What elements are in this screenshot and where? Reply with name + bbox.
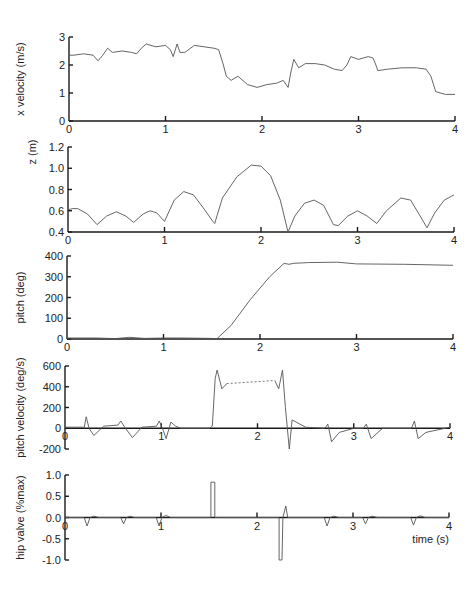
x-tick-label: 4	[447, 430, 453, 442]
figure: 012301234x velocity (m/s) 0.40.60.81.01.…	[0, 0, 476, 593]
y-axis-label: x velocity (m/s)	[14, 42, 26, 115]
x-tick-label: 0	[64, 341, 70, 353]
y-tick-label: 1.0	[46, 469, 61, 481]
x-tick-label: 0	[62, 520, 68, 532]
x-tick-label: 3	[353, 341, 359, 353]
y-tick-label: 0	[55, 422, 61, 434]
y-tick-label: 0.6	[49, 205, 64, 217]
x-tick-label: 3	[355, 123, 361, 135]
y-tick-label: 1.0	[49, 162, 64, 174]
x-tick-label: 1	[162, 123, 168, 135]
data-series-line	[275, 370, 450, 449]
x-tick-label: 0	[62, 430, 68, 442]
y-tick-label: 0.5	[46, 490, 61, 502]
y-tick-label: 0.0	[46, 512, 61, 524]
y-axis-label: hip valve (%max)	[14, 475, 26, 559]
x-tick-label: 0	[65, 234, 71, 246]
x-tick-label: 4	[451, 234, 457, 246]
y-tick-label: 2	[59, 59, 65, 71]
data-series-line	[69, 44, 455, 94]
x-tick-label: 4	[452, 123, 458, 135]
y-tick-label: 400	[45, 250, 63, 262]
y-tick-label: 300	[45, 271, 63, 283]
x-tick-label: 4	[446, 520, 452, 532]
data-series-line	[68, 165, 454, 232]
y-tick-label: 1	[59, 87, 65, 99]
y-tick-label: 200	[45, 292, 63, 304]
y-axis-label: pitch velocity (deg/s)	[14, 357, 26, 457]
x-tick-label: 2	[259, 123, 265, 135]
y-tick-label: 0.4	[49, 226, 64, 238]
panel-x-velocity: 012301234x velocity (m/s)	[14, 31, 458, 135]
x-tick-label: 1	[161, 234, 167, 246]
x-tick-label: 3	[354, 234, 360, 246]
x-tick-label: 3	[351, 430, 357, 442]
x-tick-label: 2	[257, 341, 263, 353]
data-series-line	[227, 381, 275, 384]
panel-hip-valve: -1.0-0.50.00.51.001234hip valve (%max)ti…	[14, 469, 452, 566]
panel-z-height: 0.40.60.81.01.201234z (m)	[26, 139, 457, 246]
x-tick-label: 0	[66, 123, 72, 135]
y-tick-label: 3	[59, 31, 65, 43]
y-tick-label: 1.2	[49, 141, 64, 153]
data-series-line	[67, 262, 453, 339]
x-tick-label: 4	[450, 341, 456, 353]
y-tick-label: 400	[43, 381, 61, 393]
y-tick-label: -0.5	[42, 533, 61, 545]
y-axis-label: pitch (deg)	[14, 272, 26, 324]
y-tick-label: 200	[43, 402, 61, 414]
x-tick-label: 1	[160, 341, 166, 353]
y-tick-label: 100	[45, 312, 63, 324]
y-tick-label: -200	[39, 443, 61, 455]
x-tick-label: 3	[350, 520, 356, 532]
y-tick-label: -1.0	[42, 554, 61, 566]
panel-pitch: 010020030040001234pitch (deg)	[14, 250, 456, 353]
x-axis-label: time (s)	[412, 533, 449, 545]
y-tick-label: 600	[43, 360, 61, 372]
y-tick-label: 0	[57, 333, 63, 345]
y-axis-label: z (m)	[26, 139, 38, 164]
x-tick-label: 2	[254, 520, 260, 532]
panel-pitch-velocity: -200020040060001234pitch velocity (deg/s…	[14, 357, 453, 457]
y-tick-label: 0	[59, 115, 65, 127]
x-tick-label: 2	[254, 430, 260, 442]
y-tick-label: 0.8	[49, 184, 64, 196]
x-tick-label: 2	[258, 234, 264, 246]
